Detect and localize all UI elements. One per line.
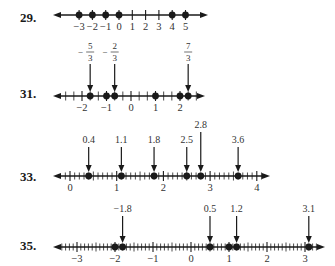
plotted-point <box>103 93 110 100</box>
problem-29: 29.−3−2−1012345 <box>20 10 208 32</box>
plotted-point <box>226 244 233 251</box>
problem-number: 31. <box>20 86 36 101</box>
fraction-numerator: 2 <box>112 41 117 51</box>
point-label: 0.5 <box>204 203 217 214</box>
plotted-point <box>207 244 214 251</box>
tick-label: 0 <box>67 182 72 193</box>
down-arrow-icon <box>120 236 126 243</box>
down-arrow-icon <box>235 165 241 172</box>
tick-label: 4 <box>170 21 176 32</box>
plotted-point <box>89 12 96 19</box>
fraction-sign: − <box>102 47 107 57</box>
right-arrow-icon <box>262 173 270 179</box>
tick-label: 3 <box>156 21 161 32</box>
tick-label: 1 <box>153 102 158 113</box>
left-arrow-icon <box>53 12 61 18</box>
fraction-denominator: 3 <box>112 53 117 63</box>
fraction-denominator: 3 <box>186 53 191 63</box>
right-arrow-icon <box>317 244 325 250</box>
left-arrow-icon <box>53 244 61 250</box>
tick-label: 3 <box>207 182 212 193</box>
tick-label: −2 <box>76 102 87 113</box>
tick-label: 1 <box>114 182 119 193</box>
point-label: 0.4 <box>82 134 95 145</box>
tick-label: 2 <box>177 102 182 113</box>
fraction-numerator: 7 <box>186 41 191 51</box>
problem-number: 33. <box>20 169 36 184</box>
down-arrow-icon <box>185 85 191 92</box>
point-label: 3.6 <box>232 134 245 145</box>
left-arrow-icon <box>53 173 61 179</box>
down-arrow-icon <box>118 165 124 172</box>
tick-label: 0 <box>188 253 193 264</box>
plotted-point <box>111 93 118 100</box>
point-label: 3.1 <box>303 203 316 214</box>
tick-label: 2 <box>143 21 148 32</box>
problem-31: 31.−2−101253−23−73 <box>20 41 205 113</box>
plotted-point <box>119 244 126 251</box>
tick-label: 1 <box>130 21 135 32</box>
plotted-point <box>169 12 176 19</box>
tick-label: −3 <box>74 21 85 32</box>
down-arrow-icon <box>151 165 157 172</box>
right-arrow-icon <box>197 93 205 99</box>
plotted-point <box>151 173 158 180</box>
down-arrow-icon <box>86 165 92 172</box>
plotted-point <box>102 12 109 19</box>
plotted-point <box>197 173 204 180</box>
tick-label: −1 <box>101 102 112 113</box>
plotted-point <box>152 93 159 100</box>
left-arrow-icon <box>53 93 61 99</box>
plotted-point <box>116 12 123 19</box>
tick-label: −2 <box>109 253 120 264</box>
point-label: 1.2 <box>230 203 243 214</box>
plotted-point <box>177 93 184 100</box>
plotted-point <box>185 93 192 100</box>
plotted-point <box>233 244 240 251</box>
tick-label: 3 <box>302 253 307 264</box>
point-label: 1.1 <box>115 134 128 145</box>
fraction-denominator: 3 <box>88 53 93 63</box>
tick-label: 5 <box>183 21 188 32</box>
plotted-point <box>182 12 189 19</box>
right-arrow-icon <box>200 12 208 18</box>
plotted-point <box>85 173 92 180</box>
plotted-point <box>235 173 242 180</box>
down-arrow-icon <box>234 236 240 243</box>
plotted-point <box>183 173 190 180</box>
tick-label: 0 <box>116 21 121 32</box>
point-label: 2.8 <box>195 119 208 130</box>
tick-label: −2 <box>87 21 98 32</box>
point-label: 2.5 <box>181 134 194 145</box>
number-line-exercises: 29.−3−2−101234531.−2−101253−23−7333.0123… <box>0 0 335 266</box>
problem-35: 35.−3−2−10123−1.80.51.23.1 <box>20 203 325 264</box>
tick-label: 4 <box>254 182 260 193</box>
tick-label: 1 <box>226 253 231 264</box>
plotted-point <box>87 93 94 100</box>
fraction-numerator: 5 <box>88 41 93 51</box>
tick-label: −3 <box>71 253 82 264</box>
tick-label: 2 <box>161 182 166 193</box>
down-arrow-icon <box>207 236 213 243</box>
down-arrow-icon <box>198 165 204 172</box>
plotted-point <box>112 244 119 251</box>
down-arrow-icon <box>184 165 190 172</box>
plotted-point <box>76 12 83 19</box>
down-arrow-icon <box>112 85 118 92</box>
point-label: 1.8 <box>148 134 161 145</box>
plotted-point <box>118 173 125 180</box>
tick-label: 2 <box>264 253 269 264</box>
fraction-sign: − <box>78 47 83 57</box>
tick-label: −1 <box>147 253 158 264</box>
tick-label: 0 <box>128 102 133 113</box>
problem-number: 29. <box>20 10 36 25</box>
point-label: −1.8 <box>114 203 132 214</box>
down-arrow-icon <box>306 236 312 243</box>
tick-label: −1 <box>100 21 111 32</box>
down-arrow-icon <box>87 85 93 92</box>
plotted-point <box>305 244 312 251</box>
problem-number: 35. <box>20 238 36 253</box>
problem-33: 33.012340.41.11.82.52.83.6 <box>20 119 270 193</box>
